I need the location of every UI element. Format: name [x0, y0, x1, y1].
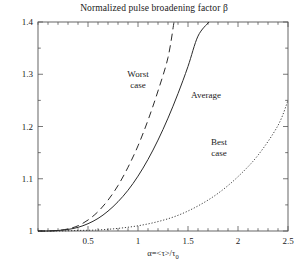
chart-figure: Normalized pulse broadening factor β 0.5… — [0, 0, 308, 271]
curve-average — [38, 22, 209, 231]
x-tick-label: 1.5 — [182, 236, 194, 246]
y-tick-label: 1 — [29, 226, 34, 236]
annotation-line: Best — [211, 137, 228, 147]
x-tick-label: 1 — [136, 236, 141, 246]
plot-frame — [38, 22, 288, 231]
annotation-line: Average — [191, 90, 221, 100]
annotation-line: case — [211, 148, 227, 158]
annotation-average: Average — [191, 90, 221, 100]
pulse-broadening-plot: 0.511.522.5 11.11.21.31.4 α=<τ>/τ0 Worst… — [0, 0, 308, 271]
curve-worst-case — [38, 22, 174, 231]
y-axis-ticks — [38, 22, 288, 231]
x-tick-label: 0.5 — [82, 236, 94, 246]
annotation-worst: Worstcase — [127, 69, 149, 90]
curve-group — [38, 22, 288, 231]
y-axis-tick-labels: 11.11.21.31.4 — [22, 17, 34, 236]
curve-best-case — [38, 100, 288, 231]
y-tick-label: 1.1 — [22, 174, 33, 184]
curve-annotations: WorstcaseAverageBestcase — [127, 69, 227, 158]
x-tick-label: 2.5 — [282, 236, 294, 246]
x-tick-label: 2 — [236, 236, 241, 246]
x-axis-ticks — [38, 22, 288, 231]
y-tick-label: 1.2 — [22, 122, 33, 132]
annotation-line: case — [130, 80, 146, 90]
y-tick-label: 1.4 — [22, 17, 34, 27]
axis-group — [38, 22, 288, 231]
annotation-line: Worst — [127, 69, 149, 79]
x-axis-tick-labels: 0.511.522.5 — [82, 236, 294, 246]
x-axis-label: α=<τ>/τ0 — [147, 248, 178, 260]
annotation-best: Bestcase — [211, 137, 228, 158]
y-tick-label: 1.3 — [22, 69, 34, 79]
